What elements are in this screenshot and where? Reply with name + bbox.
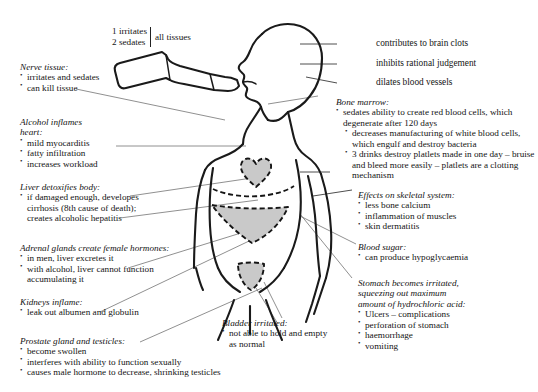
note-list: mild myocarditis fatty infiltration incr… — [20, 138, 98, 169]
bracket-divider — [150, 27, 151, 47]
note-heading: Bladder irritated: — [222, 318, 332, 328]
note-heading: Effects on skeletal system: — [358, 190, 456, 200]
note-nerve-tissue: Nerve tissue: irritates and sedates can … — [20, 62, 99, 93]
note-list: sedates ability to create red blood cell… — [336, 107, 536, 180]
leader-nerve-tissue — [76, 89, 225, 120]
leader-liver — [130, 178, 252, 196]
note-list: in men, liver excretes it with alcohol, … — [20, 253, 190, 284]
diagram-canvas: 1 irritates 2 sedates all tissues contri… — [0, 0, 538, 392]
list-item: if damaged enough, developes cirrhosis (… — [20, 192, 140, 223]
note-heading-line-2: heart: — [20, 127, 98, 137]
note-heading: Bone marrow: — [336, 97, 536, 107]
diaphragm-line — [213, 186, 294, 196]
list-item: in men, liver excretes it — [20, 253, 190, 263]
note-heart: Alcohol inflames heart: mild myocarditis… — [20, 117, 98, 169]
note-heading-line-2: squeezing out maximum — [358, 288, 466, 298]
tissue-tail: all tissues — [155, 32, 191, 42]
callout-brain-clots: contributes to brain clots — [376, 38, 468, 48]
callout-rational-judgement: inhibits rational judgement — [376, 58, 476, 68]
callout-blood-vessels: dilates blood vessels — [376, 77, 452, 87]
note-heading-line-1: Alcohol inflames — [20, 117, 98, 127]
note-list: less bone calcium inflammation of muscle… — [358, 200, 456, 231]
list-item: increases workload — [20, 159, 98, 169]
note-heading-line-3: amount of hydrochloric acid: — [358, 299, 466, 309]
note-heading: Adrenal glands create female hormones: — [20, 243, 190, 253]
note-liver: Liver detoxifies body: if damaged enough… — [20, 182, 140, 224]
note-heading: Prostate gland and testicles: — [20, 336, 221, 346]
note-list: if damaged enough, developes cirrhosis (… — [20, 192, 140, 223]
note-skeletal-system: Effects on skeletal system: less bone ca… — [358, 190, 456, 232]
leader-stomach — [300, 214, 352, 278]
tissue-line-1: 1 irritates — [112, 26, 147, 36]
list-item: can kill tissue — [20, 83, 99, 93]
note-list: can produce hypoglycaemia — [358, 252, 468, 262]
note-bone-marrow: Bone marrow: sedates ability to create r… — [336, 97, 536, 181]
bladder-shape — [238, 263, 264, 291]
list-item: skin dermatitis — [358, 221, 456, 231]
list-item: can produce hypoglycaemia — [358, 252, 468, 262]
note-heading: Nerve tissue: — [20, 62, 99, 72]
note-list: irritates and sedates can kill tissue — [20, 72, 99, 93]
heart-shape — [241, 158, 271, 187]
list-item: inflammation of muscles — [358, 211, 456, 221]
note-heading: Blood sugar: — [358, 242, 468, 252]
note-heading: Liver detoxifies body: — [20, 182, 140, 192]
note-kidneys: Kidneys inflame: leak out albumen and gl… — [20, 297, 139, 318]
note-prostate-testicles: Prostate gland and testicles: become swo… — [20, 336, 221, 378]
list-item: perforation of stomach — [358, 320, 466, 330]
note-heading-line-1: Stomach becomes irritated, — [358, 278, 466, 288]
list-item: with alcohol, liver cannot function accu… — [20, 264, 190, 285]
body-outline — [194, 112, 331, 340]
bottle-outline — [115, 52, 239, 91]
list-item: vomiting — [358, 341, 466, 351]
list-item: become swollen — [20, 346, 221, 356]
tissue-line-2: 2 sedates — [112, 37, 145, 47]
list-item: leak out albumen and globulin — [20, 307, 139, 317]
note-stomach: Stomach becomes irritated, squeezing out… — [358, 278, 466, 351]
list-item: haemorrhage — [358, 330, 466, 340]
leader-liver-2 — [120, 200, 258, 218]
list-item: decreases manufacturing of white blood c… — [336, 128, 536, 149]
organ-shapes — [212, 158, 294, 290]
list-item: less bone calcium — [358, 200, 456, 210]
list-item: mild myocarditis — [20, 138, 98, 148]
list-item: sedates ability to create red blood cell… — [336, 107, 536, 128]
head-outline — [239, 24, 322, 144]
tissue-bracket-label: 1 irritates 2 sedates all tissues — [112, 26, 191, 48]
note-blood-sugar: Blood sugar: can produce hypoglycaemia — [358, 242, 468, 263]
list-item: irritates and sedates — [20, 72, 99, 82]
list-item: not able to hold and empty as normal — [222, 328, 332, 349]
list-item: Ulcers – complications — [358, 309, 466, 319]
list-item: interferes with ability to function sexu… — [20, 357, 221, 367]
note-heading: Kidneys inflame: — [20, 297, 139, 307]
note-list: become swollen interferes with ability t… — [20, 346, 221, 377]
note-list: leak out albumen and globulin — [20, 307, 139, 317]
list-item: causes male hormone to decrease, shrinki… — [20, 367, 221, 377]
liver-shape — [212, 205, 288, 243]
leader-bladder — [264, 282, 282, 318]
note-list: Ulcers – complications perforation of st… — [358, 309, 466, 351]
leader-skeletal — [313, 190, 352, 196]
note-adrenal-glands: Adrenal glands create female hormones: i… — [20, 243, 190, 285]
leader-bone-marrow — [268, 96, 318, 104]
list-item: fatty infiltration — [20, 148, 98, 158]
note-bladder: Bladder irritated: not able to hold and … — [222, 318, 332, 349]
leader-blood-vessels — [306, 77, 337, 83]
note-list: not able to hold and empty as normal — [222, 328, 332, 349]
list-item: 3 drinks destroy platlets made in one da… — [336, 149, 536, 180]
leader-blood-sugar — [300, 216, 356, 244]
